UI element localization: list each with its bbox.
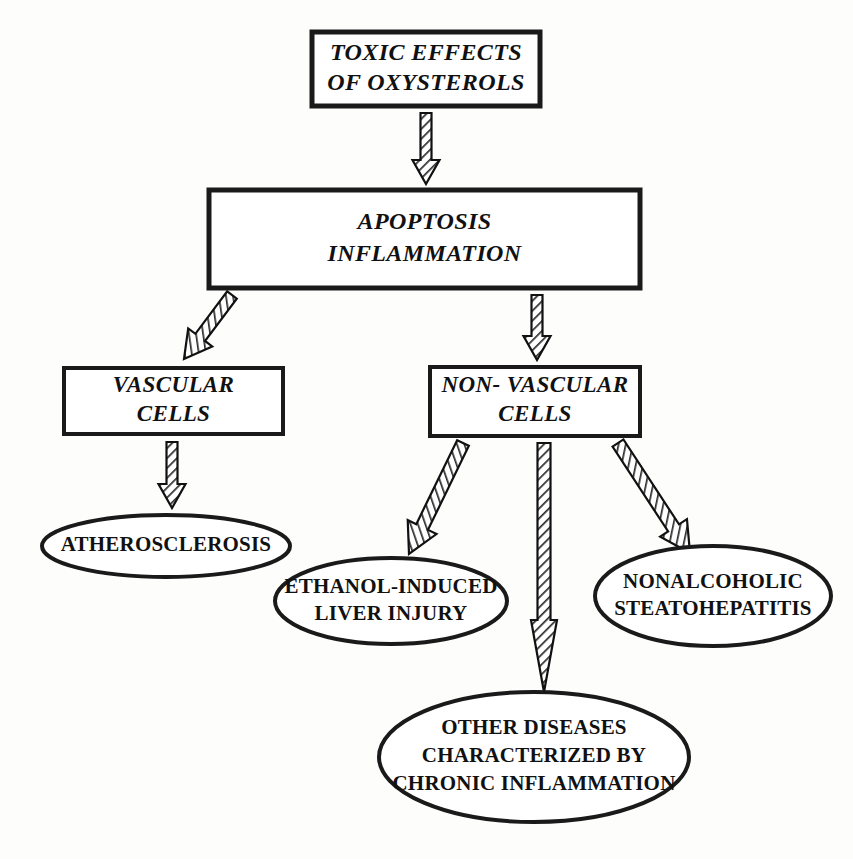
node-layer: TOXIC EFFECTSOF OXYSTEROLSAPOPTOSISINFLA… [42, 32, 831, 822]
box-non-vascular-cells[interactable]: NON- VASCULARCELLS [430, 367, 640, 436]
arrow-nonvascular-to-ethanol [395, 436, 478, 561]
arrow-nonvascular-to-nash-shape [605, 434, 704, 562]
ellipse-atherosclerosis[interactable]: ATHEROSCLEROSIS [42, 515, 290, 577]
arrow-apoptosis-to-vascular [172, 286, 244, 368]
arrow-apoptosis-to-vascular-shape [172, 286, 244, 368]
arrow-toxic-to-apoptosis [413, 113, 440, 184]
arrow-toxic-to-apoptosis-shape [413, 113, 440, 184]
arrow-vascular-to-atherosclerosis-shape [159, 442, 186, 508]
arrow-apoptosis-to-nonvascular [524, 295, 551, 360]
box-apoptosis-inflammation[interactable]: APOPTOSISINFLAMMATION [209, 190, 640, 288]
oxysterol-flowchart-svg: TOXIC EFFECTSOF OXYSTEROLSAPOPTOSISINFLA… [0, 0, 853, 859]
arrow-nonvascular-to-other [531, 443, 557, 692]
ellipse-nonalcoholic-steatohepatitis[interactable]: NONALCOHOLICSTEATOHEPATITIS [595, 546, 831, 646]
ellipse-atherosclerosis-label: ATHEROSCLEROSIS [61, 532, 271, 556]
ellipse-other-diseases-chronic-inflammation[interactable]: OTHER DISEASESCHARACTERIZED BYCHRONIC IN… [379, 692, 689, 822]
ellipse-ethanol-induced-liver-injury[interactable]: ETHANOL-INDUCEDLIVER INJURY [275, 558, 507, 644]
arrow-apoptosis-to-nonvascular-shape [524, 295, 551, 360]
arrow-nonvascular-to-ethanol-shape [395, 436, 478, 561]
flowchart-canvas: TOXIC EFFECTSOF OXYSTEROLSAPOPTOSISINFLA… [0, 0, 853, 859]
box-toxic-effects-of-oxysterols[interactable]: TOXIC EFFECTSOF OXYSTEROLS [312, 32, 540, 106]
arrow-vascular-to-atherosclerosis [159, 442, 186, 508]
arrow-nonvascular-to-nash [605, 434, 704, 562]
arrow-nonvascular-to-other-shape [531, 443, 557, 692]
box-vascular-cells[interactable]: VASCULARCELLS [64, 368, 283, 434]
